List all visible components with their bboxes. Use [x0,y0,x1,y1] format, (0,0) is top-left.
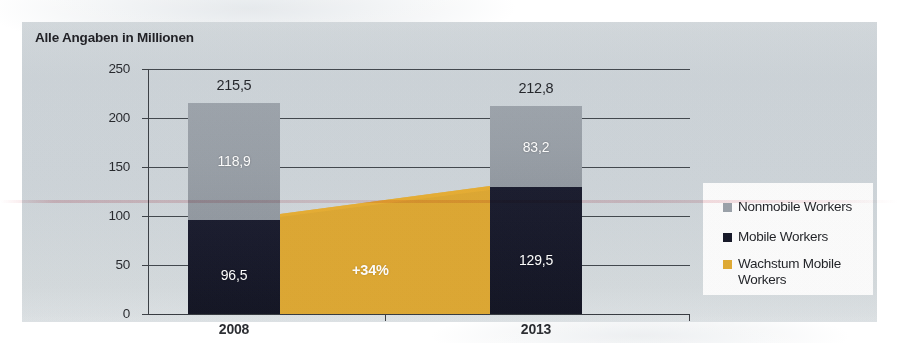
legend-swatch-growth-icon [723,260,732,269]
y-axis-label-150: 150 [84,159,130,174]
y-tick-150 [142,167,149,168]
legend-item-mobile[interactable]: Mobile Workers [723,229,828,245]
y-axis-label-0: 0 [84,306,130,321]
x-axis-label-2013: 2013 [476,321,596,337]
legend-label-mobile: Mobile Workers [738,229,828,245]
x-axis-tick-end [689,314,690,321]
y-axis-line [148,69,149,314]
legend-swatch-nonmobile-icon [723,203,732,212]
y-axis-label-250: 250 [84,61,130,76]
bar-2013[interactable] [490,106,582,314]
bar-2013-nonmobile-value: 83,2 [490,139,582,155]
chart-screenshot: Alle Angaben in Millionen 250 200 150 10… [0,0,899,343]
y-tick-200 [142,118,149,119]
bar-2008-mobile-value: 96,5 [188,267,280,283]
x-axis-tick-mid [385,314,386,321]
gridline-250 [148,69,690,70]
growth-area [280,186,490,315]
chart-panel: Alle Angaben in Millionen 250 200 150 10… [22,22,877,322]
legend-label-nonmobile: Nonmobile Workers [738,199,852,215]
bar-2013-mobile-value: 129,5 [490,252,582,268]
bar-2013-mobile-segment[interactable] [490,187,582,314]
chart-legend: Nonmobile Workers Mobile Workers Wachstu… [703,183,873,295]
x-axis-label-2008: 2008 [174,321,294,337]
bar-2013-total-label: 212,8 [476,80,596,96]
y-tick-100 [142,216,149,217]
y-axis-label-50: 50 [84,257,130,272]
bar-2008-nonmobile-value: 118,9 [188,153,280,169]
growth-percent-label: +34% [352,262,389,278]
y-tick-0 [142,314,149,315]
legend-item-nonmobile[interactable]: Nonmobile Workers [723,199,852,215]
y-axis-label-200: 200 [84,110,130,125]
y-tick-50 [142,265,149,266]
bar-2008-total-label: 215,5 [174,77,294,93]
legend-label-growth: Wachstum Mobile Workers [738,256,870,288]
legend-item-growth[interactable]: Wachstum Mobile Workers [723,256,870,288]
legend-swatch-mobile-icon [723,233,732,242]
y-axis-label-100: 100 [84,208,130,223]
y-tick-250 [142,69,149,70]
